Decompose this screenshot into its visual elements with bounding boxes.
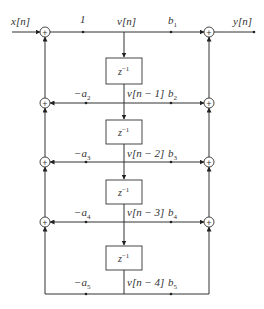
adder-right-0: + bbox=[204, 27, 214, 38]
adder-left-0: + bbox=[40, 27, 50, 38]
adder-right-3: + bbox=[204, 217, 214, 228]
svg-text:+: + bbox=[206, 99, 211, 109]
svg-text:+: + bbox=[42, 218, 47, 228]
svg-text:+: + bbox=[42, 28, 47, 38]
node-label-3: v[n − 3] bbox=[127, 206, 164, 218]
node-label-4: v[n − 4] bbox=[127, 276, 164, 288]
svg-text:+: + bbox=[42, 158, 47, 168]
gain-dot-b1 bbox=[170, 31, 173, 34]
gain-dot-a5 bbox=[85, 293, 88, 296]
input-label: x[n] bbox=[10, 15, 30, 27]
adder-left-1: + bbox=[40, 98, 50, 109]
gain-label-a5: −a5 bbox=[74, 276, 91, 291]
gain-dot-b3 bbox=[170, 161, 173, 164]
gain-dot-b4 bbox=[170, 221, 173, 224]
adder-right-1: + bbox=[204, 98, 214, 109]
adder-right-2: + bbox=[204, 157, 214, 168]
gain-dot-a4 bbox=[85, 221, 88, 224]
adder-left-3: + bbox=[40, 217, 50, 228]
gain-dot-b2 bbox=[170, 102, 173, 105]
node-label-2: v[n − 2] bbox=[127, 147, 164, 159]
gain-dot-1 bbox=[82, 31, 85, 34]
gain-label-a3: −a3 bbox=[74, 147, 91, 162]
svg-text:+: + bbox=[206, 28, 211, 38]
gain-dot-a2 bbox=[85, 102, 88, 105]
gain-label-b3: b3 bbox=[168, 147, 178, 162]
gain-label-b5: b5 bbox=[168, 276, 178, 291]
output-label: y[n] bbox=[232, 15, 252, 27]
gain-label-b4: b4 bbox=[168, 206, 178, 221]
gain-label-a2: −a2 bbox=[74, 87, 91, 102]
signal-flow-diagram: + + + + + + + + z−1 z−1 z−1 z−1 x[n] 1 v… bbox=[0, 0, 264, 309]
node-label-1: v[n − 1] bbox=[127, 87, 164, 99]
adder-left-2: + bbox=[40, 157, 50, 168]
gain-dot-b5 bbox=[170, 293, 173, 296]
gain-label-1: 1 bbox=[80, 13, 86, 25]
svg-text:+: + bbox=[42, 99, 47, 109]
gain-label-b1: b1 bbox=[168, 14, 178, 29]
output-node-dot bbox=[253, 31, 256, 34]
gain-label-b2: b2 bbox=[168, 87, 178, 102]
svg-text:+: + bbox=[206, 218, 211, 228]
node-label-0: v[n] bbox=[117, 15, 136, 27]
gain-label-a4: −a4 bbox=[74, 206, 91, 221]
svg-text:+: + bbox=[206, 158, 211, 168]
